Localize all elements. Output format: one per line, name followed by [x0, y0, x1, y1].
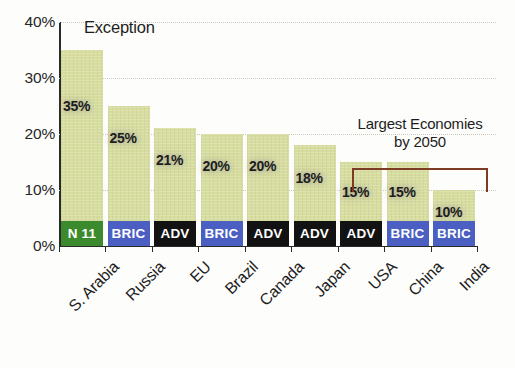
x-tick-4	[245, 246, 246, 252]
bar-value-brazil: 20%	[203, 158, 230, 174]
bar-column-brazil[interactable]: 20% BRIC	[201, 134, 243, 246]
bar-chart: 40% 30% 20% 10% 0% 35% N 11 25% BRIC	[0, 0, 515, 368]
x-tick-0	[59, 246, 60, 252]
bar-tag-s-arabia: N 11	[61, 221, 103, 246]
annotation-largest-economies: Largest Economies by 2050	[330, 115, 510, 151]
bar-value-s-arabia: 35%	[63, 98, 90, 114]
y-tick-label-10: 10%	[3, 181, 55, 199]
bar-tag-usa: ADV	[340, 221, 382, 246]
annotation-largest-economies-line2: by 2050	[330, 133, 510, 151]
bar-value-canada: 20%	[249, 158, 276, 174]
x-axis-label-japan: Japan	[263, 258, 354, 349]
bar-tag-china: BRIC	[387, 221, 429, 246]
bar-tag-eu: ADV	[154, 221, 196, 246]
bar-value-india: 10%	[435, 204, 462, 220]
bar-value-japan: 18%	[296, 170, 323, 186]
bar-tag-canada: ADV	[247, 221, 289, 246]
x-tick-7	[384, 246, 385, 252]
bar-column-eu[interactable]: 21% ADV	[154, 128, 196, 246]
y-tick-label-40: 40%	[3, 13, 55, 31]
bar-value-eu: 21%	[156, 152, 183, 168]
bar-tag-russia: BRIC	[108, 221, 150, 246]
x-tick-2	[152, 246, 153, 252]
x-tick-3	[198, 246, 199, 252]
x-tick-8	[431, 246, 432, 252]
bar-value-russia: 25%	[110, 130, 137, 146]
bar-s-arabia[interactable]	[61, 50, 103, 246]
annotation-largest-economies-line1: Largest Economies	[330, 115, 510, 133]
bar-column-russia[interactable]: 25% BRIC	[108, 106, 150, 246]
x-axis-label-eu: EU	[124, 258, 215, 349]
bar-column-japan[interactable]: 18% ADV	[294, 145, 336, 246]
annotation-bracket	[352, 168, 488, 192]
x-axis-label-india: India	[402, 258, 493, 349]
y-axis-tick-labels: 40% 30% 20% 10% 0%	[0, 0, 55, 368]
annotation-exception: Exception	[84, 18, 155, 37]
bar-tag-brazil: BRIC	[201, 221, 243, 246]
y-tick-label-0: 0%	[3, 237, 55, 255]
x-tick-1	[105, 246, 106, 252]
bar-tag-japan: ADV	[294, 221, 336, 246]
bar-tag-india: BRIC	[433, 221, 475, 246]
x-tick-6	[338, 246, 339, 252]
bar-column-s-arabia[interactable]: 35% N 11	[61, 50, 103, 246]
x-tick-9	[477, 246, 478, 252]
bar-column-india[interactable]: 10% BRIC	[433, 190, 475, 246]
bar-column-canada[interactable]: 20% ADV	[247, 134, 289, 246]
x-tick-5	[291, 246, 292, 252]
y-tick-label-20: 20%	[3, 125, 55, 143]
y-tick-label-30: 30%	[3, 69, 55, 87]
